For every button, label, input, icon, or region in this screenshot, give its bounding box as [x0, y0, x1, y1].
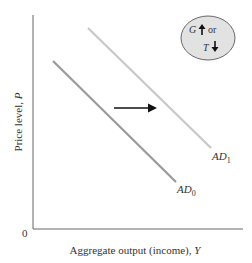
policy-callout: G or T — [181, 16, 235, 60]
origin-label: 0 — [22, 227, 28, 239]
ad-shift-chart: 0 Price level, P Aggregate output (incom… — [0, 0, 252, 263]
x-axis-label: Aggregate output (income), Y — [70, 244, 203, 257]
ad1-label: AD1 — [211, 150, 231, 165]
or-label: or — [208, 24, 217, 35]
ad0-curve — [53, 61, 176, 182]
right-shift-arrow-icon — [114, 104, 157, 113]
g-label: G — [189, 24, 196, 35]
ad0-label: AD0 — [176, 183, 196, 198]
y-axis-label: Price level, P — [12, 92, 24, 151]
